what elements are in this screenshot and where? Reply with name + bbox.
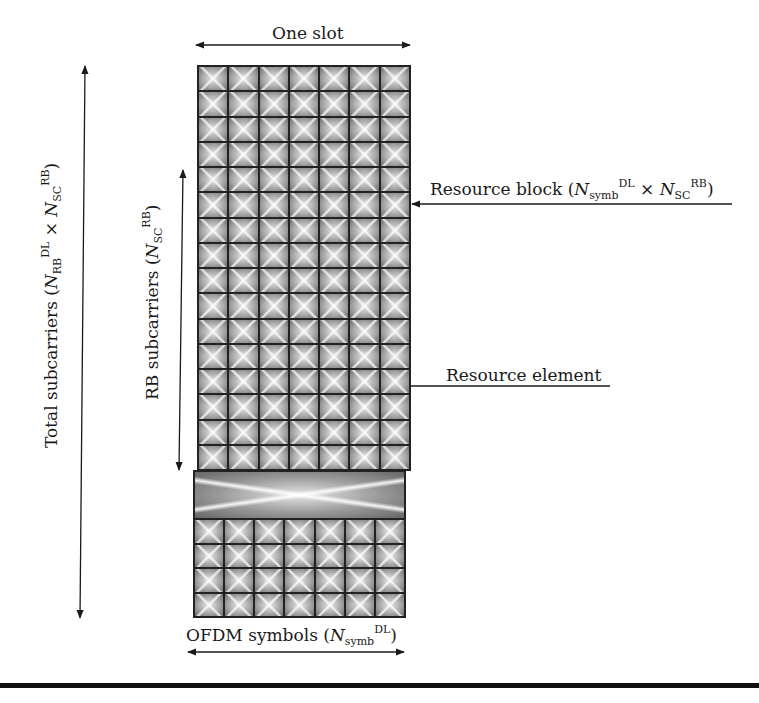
- resource-element-cell: [225, 594, 253, 617]
- tsc-n1-sup: DL: [39, 242, 52, 258]
- resource-element-cell: [320, 320, 348, 343]
- resource-element-cell: [260, 446, 288, 469]
- resource-element-cell: [320, 446, 348, 469]
- resource-element-cell: [320, 67, 348, 90]
- resource-element-cell: [350, 294, 378, 317]
- resource-element-cell: [350, 446, 378, 469]
- rb-n1-sup: DL: [619, 177, 635, 190]
- resource-element-cell: [225, 520, 253, 543]
- resource-element-cell: [229, 168, 257, 191]
- resource-element-cell: [229, 269, 257, 292]
- resource-element-cell: [260, 370, 288, 393]
- total-subcarriers-arrow: [80, 66, 85, 618]
- resource-element-cell: [229, 92, 257, 115]
- resource-element-cell: [199, 118, 227, 141]
- resource-element-cell: [381, 67, 409, 90]
- resource-element-cell: [290, 67, 318, 90]
- tsc-times: ×: [41, 217, 61, 242]
- resource-element-cell: [320, 193, 348, 216]
- ofdm-n: N: [330, 625, 345, 645]
- resource-element-cell: [225, 569, 253, 592]
- resource-element-cell: [229, 67, 257, 90]
- resource-element-cell: [260, 294, 288, 317]
- rb-n2-sup: RB: [691, 177, 707, 190]
- resource-element-cell: [199, 219, 227, 242]
- tsc-n1-sub: RB: [51, 258, 64, 274]
- resource-element-cell: [260, 193, 288, 216]
- resource-element-cell: [316, 520, 344, 543]
- resource-element-cell: [260, 168, 288, 191]
- rbsc-suffix: ): [142, 205, 162, 212]
- resource-element-label: Resource element: [446, 367, 601, 384]
- resource-element-cell: [290, 219, 318, 242]
- resource-element-cell: [381, 421, 409, 444]
- tsc-n1: N: [41, 274, 61, 289]
- resource-element-cell: [320, 345, 348, 368]
- resource-element-cell: [199, 395, 227, 418]
- rb-subcarriers-label: RB subcarriers (NSCRB): [141, 205, 164, 400]
- one-slot-label: One slot: [272, 25, 344, 42]
- resource-element-cell: [381, 269, 409, 292]
- resource-element-cell: [260, 320, 288, 343]
- resource-element-cell: [195, 545, 223, 568]
- resource-element-cell: [199, 269, 227, 292]
- resource-element-cell: [290, 446, 318, 469]
- resource-element-cell: [199, 345, 227, 368]
- resource-element-cell: [320, 143, 348, 166]
- tsc-prefix: Total subcarriers (: [41, 289, 61, 448]
- resource-element-cell: [381, 395, 409, 418]
- resource-element-cell: [229, 421, 257, 444]
- rb-n1: N: [574, 179, 589, 199]
- resource-element-cell: [199, 370, 227, 393]
- resource-element-cell: [195, 520, 223, 543]
- resource-element-cell: [381, 370, 409, 393]
- resource-element-cell: [350, 269, 378, 292]
- resource-element-cell: [290, 193, 318, 216]
- resource-element-cell: [199, 92, 227, 115]
- resource-element-cell: [229, 294, 257, 317]
- resource-element-cell: [260, 143, 288, 166]
- resource-element-cell: [290, 370, 318, 393]
- resource-element-cell: [260, 421, 288, 444]
- resource-element-cell: [350, 193, 378, 216]
- resource-element-cell: [376, 545, 404, 568]
- resource-element-cell: [350, 67, 378, 90]
- resource-element-cell: [381, 244, 409, 267]
- resource-element-cell: [381, 345, 409, 368]
- resource-element-cell: [199, 168, 227, 191]
- resource-element-cell: [381, 193, 409, 216]
- resource-element-cell: [320, 421, 348, 444]
- ofdm-prefix: OFDM symbols (: [186, 625, 330, 645]
- resource-element-cell: [290, 168, 318, 191]
- resource-element-cell: [285, 545, 313, 568]
- resource-element-cell: [376, 594, 404, 617]
- resource-element-cell: [290, 143, 318, 166]
- resource-element-cell: [255, 594, 283, 617]
- rb-times: ×: [635, 179, 660, 199]
- resource-element-cell: [350, 118, 378, 141]
- resource-element-cell: [199, 67, 227, 90]
- resource-element-cell: [320, 370, 348, 393]
- resource-element-cell: [320, 244, 348, 267]
- resource-element-cell: [225, 545, 253, 568]
- resource-element-cell: [350, 219, 378, 242]
- resource-element-cell: [381, 320, 409, 343]
- resource-element-cell: [229, 244, 257, 267]
- rb-subcarriers-arrow: [179, 170, 183, 470]
- resource-element-cell: [350, 421, 378, 444]
- resource-element-cell: [346, 545, 374, 568]
- resource-element-cell: [290, 421, 318, 444]
- resource-element-cell: [290, 269, 318, 292]
- resource-element-cell: [320, 168, 348, 191]
- resource-element-cell: [229, 370, 257, 393]
- resource-element-cell: [320, 395, 348, 418]
- resource-element-cell: [320, 92, 348, 115]
- resource-element-cell: [199, 421, 227, 444]
- resource-element-cell: [290, 118, 318, 141]
- resource-element-cell: [290, 320, 318, 343]
- resource-element-cell: [229, 320, 257, 343]
- resource-element-cell: [260, 395, 288, 418]
- tsc-n2-sup: RB: [39, 169, 52, 185]
- resource-element-cell: [229, 118, 257, 141]
- resource-element-cell: [260, 345, 288, 368]
